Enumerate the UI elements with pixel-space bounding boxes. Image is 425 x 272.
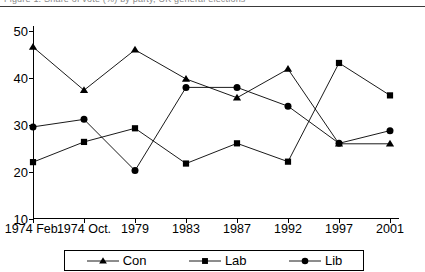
x-axis-labels: 1974 Feb.1974 Oct.1979198319871992199720… bbox=[0, 222, 425, 238]
x-axis-tick-label: 1983 bbox=[172, 222, 200, 236]
x-axis-tick-label: 1987 bbox=[223, 222, 251, 236]
legend-item-con: Con bbox=[86, 254, 147, 267]
data-point-marker bbox=[29, 43, 37, 50]
legend-item-lab: Lab bbox=[188, 254, 247, 267]
data-point-marker bbox=[183, 160, 189, 166]
line-chart: Figure 1. Share of vote (%) by party, UK… bbox=[0, 0, 425, 272]
x-axis-tick-label: 1992 bbox=[274, 222, 302, 236]
data-point-marker bbox=[336, 60, 342, 66]
data-point-marker bbox=[182, 75, 190, 82]
legend-label: Lib bbox=[325, 254, 342, 267]
series-lab bbox=[30, 60, 393, 167]
y-axis-tick-label: 40 bbox=[14, 72, 28, 85]
y-axis-tick-label: 30 bbox=[14, 119, 28, 132]
y-axis-tick-label: 50 bbox=[14, 25, 28, 38]
y-axis-tick bbox=[29, 31, 34, 32]
legend-item-lib: Lib bbox=[288, 254, 342, 267]
legend-label: Con bbox=[123, 254, 147, 267]
legend-marker-square-icon bbox=[188, 255, 222, 267]
series-line bbox=[33, 63, 390, 164]
data-point-marker bbox=[131, 46, 139, 53]
x-axis-tick-label: 1997 bbox=[325, 222, 353, 236]
y-axis-tick-label: 20 bbox=[14, 166, 28, 179]
y-axis-labels: 1020304050 bbox=[0, 31, 28, 219]
x-axis-tick-label: 1979 bbox=[121, 222, 149, 236]
data-point-marker bbox=[285, 159, 291, 165]
chart-legend: ConLabLib bbox=[64, 250, 364, 271]
data-point-marker bbox=[285, 103, 292, 110]
data-point-marker bbox=[81, 116, 88, 123]
series-con bbox=[29, 43, 394, 146]
plot-area bbox=[33, 31, 398, 219]
legend-marker-circle-icon bbox=[288, 255, 322, 267]
data-point-marker bbox=[387, 127, 394, 134]
y-axis-tick bbox=[29, 172, 34, 173]
data-point-marker bbox=[183, 84, 190, 91]
x-axis-tick-label: 1974 Feb. bbox=[5, 222, 61, 236]
y-axis-tick bbox=[29, 78, 34, 79]
data-point-marker bbox=[284, 65, 292, 72]
legend-marker-triangle-icon bbox=[86, 255, 120, 267]
header-divider bbox=[0, 6, 425, 7]
data-point-marker bbox=[132, 125, 138, 131]
data-point-marker bbox=[386, 140, 394, 147]
series-line bbox=[33, 87, 390, 170]
data-point-marker bbox=[387, 92, 393, 98]
data-point-marker bbox=[336, 140, 343, 147]
x-axis-tick-label: 1974 Oct. bbox=[57, 222, 111, 236]
x-axis-tick-label: 2001 bbox=[376, 222, 404, 236]
figure-caption: Figure 1. Share of vote (%) by party, UK… bbox=[4, 0, 246, 4]
data-point-marker bbox=[81, 139, 87, 145]
data-point-marker bbox=[234, 84, 241, 91]
y-axis-tick bbox=[29, 125, 34, 126]
data-point-marker bbox=[30, 159, 36, 165]
legend-label: Lab bbox=[225, 254, 247, 267]
series-layer bbox=[33, 31, 398, 219]
data-point-marker bbox=[132, 167, 139, 174]
data-point-marker bbox=[234, 140, 240, 146]
series-lib bbox=[30, 84, 394, 174]
